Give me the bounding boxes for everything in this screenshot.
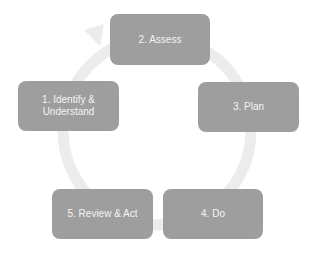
step-1-identify-understand: 1. Identify & Understand (18, 81, 119, 131)
step-4-do: 4. Do (163, 189, 263, 239)
step-label: 3. Plan (233, 101, 264, 113)
step-label: 5. Review & Act (67, 208, 137, 220)
step-label: 1. Identify & Understand (24, 94, 113, 118)
step-3-plan: 3. Plan (198, 82, 299, 132)
step-label: 4. Do (201, 208, 225, 220)
step-5-review-act: 5. Review & Act (52, 189, 153, 239)
step-2-assess: 2. Assess (110, 14, 210, 65)
step-label: 2. Assess (139, 34, 182, 46)
